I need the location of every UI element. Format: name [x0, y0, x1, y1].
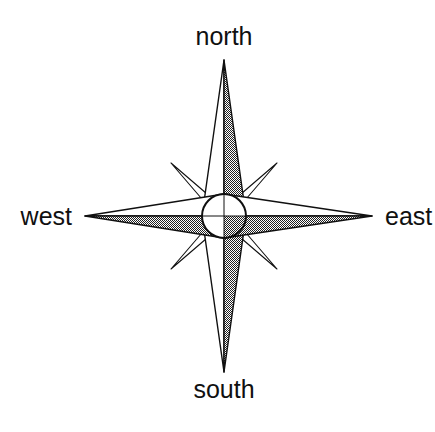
label-east: east [385, 202, 432, 230]
compass-rose-svg: north east south west [0, 0, 435, 432]
center-hub [202, 194, 246, 238]
label-west: west [20, 202, 72, 230]
label-north: north [196, 22, 253, 50]
label-south: south [193, 375, 254, 403]
compass-rose-figure: north east south west [0, 0, 435, 432]
